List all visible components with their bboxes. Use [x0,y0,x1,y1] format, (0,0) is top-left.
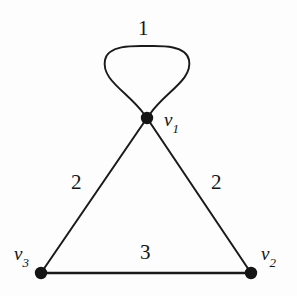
graph-figure: 1 2 2 3 v1 v2 v3 [0,0,297,296]
edge-weight-left: 2 [71,172,82,193]
vertex-label-v1-subscript: 1 [172,121,179,136]
edge-v1-v2 [147,118,251,273]
edge-weight-right: 2 [211,172,222,193]
vertex-v1 [141,112,153,124]
vertex-v3 [35,267,47,279]
vertex-label-v3: v3 [14,244,29,267]
edge-weight-bottom: 3 [140,242,151,263]
vertex-label-v2-subscript: 2 [269,255,276,270]
vertex-v2 [245,267,257,279]
edge-weight-loop: 1 [138,18,149,39]
vertex-label-v1: v1 [164,110,179,133]
vertex-label-v2: v2 [261,244,276,267]
vertex-label-v3-subscript: 3 [22,255,29,270]
edge-self-loop-v1 [105,46,190,114]
edge-v1-v3 [41,118,147,273]
